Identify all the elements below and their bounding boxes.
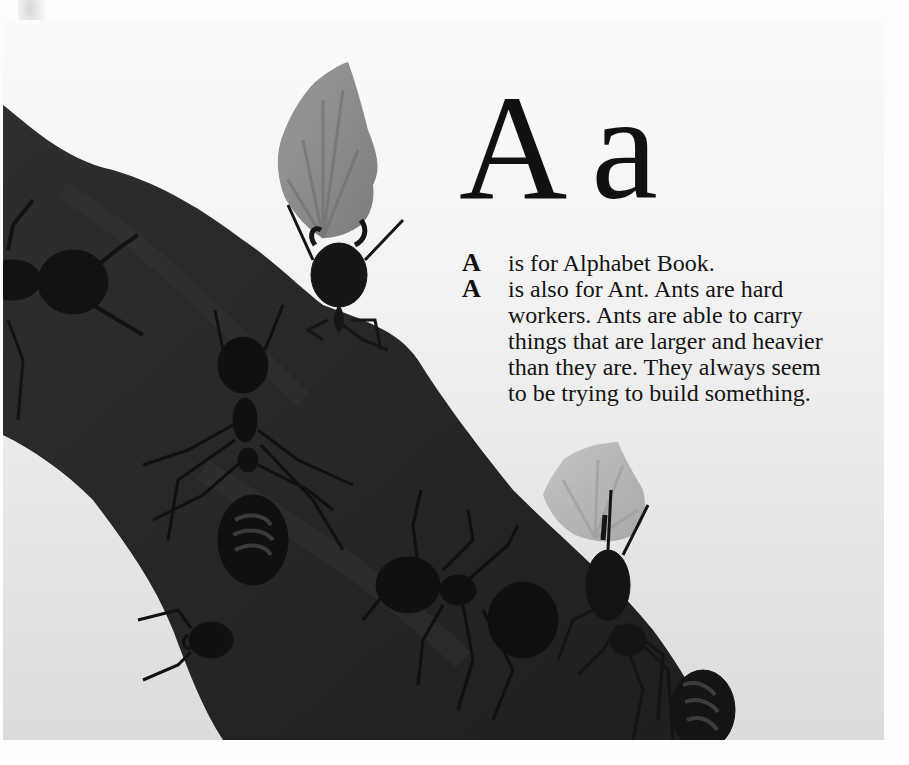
leaf-fragment-2 <box>543 442 645 541</box>
paragraph-text: than they are. They always seem <box>508 354 821 380</box>
paragraph-1-line-1: A is for Alphabet Book. <box>462 250 882 276</box>
paragraph-text: things that are larger and heavier <box>508 328 823 354</box>
heading-lowercase-letter: a <box>591 64 660 230</box>
paragraph-2-line-2: workers. Ants are able to carry <box>462 302 882 328</box>
paragraph-text: workers. Ants are able to carry <box>508 302 803 328</box>
paragraph-2-line-3: things that are larger and heavier <box>462 328 882 354</box>
leaf-fragment-1 <box>278 62 378 238</box>
paragraph-text: to be trying to build something. <box>508 380 811 406</box>
paragraph-2-line-4: than they are. They always seem <box>462 354 882 380</box>
paragraph-2-line-1: A is also for Ant. Ants are hard <box>462 276 882 302</box>
book-page: Aa A is for Alphabet Book. A is also for… <box>0 0 909 765</box>
drop-letter: A <box>462 250 481 276</box>
illustration-panel: Aa A is for Alphabet Book. A is also for… <box>3 20 884 740</box>
paragraph-text: is for Alphabet Book. <box>508 250 715 276</box>
heading-uppercase-letter: A <box>459 64 569 230</box>
paragraph-2-line-5: to be trying to build something. <box>462 380 882 406</box>
paragraph-text: is also for Ant. Ants are hard <box>508 276 783 302</box>
body-text: A is for Alphabet Book. A is also for An… <box>462 250 882 406</box>
drop-letter: A <box>462 276 481 302</box>
page-heading: Aa <box>459 72 660 222</box>
